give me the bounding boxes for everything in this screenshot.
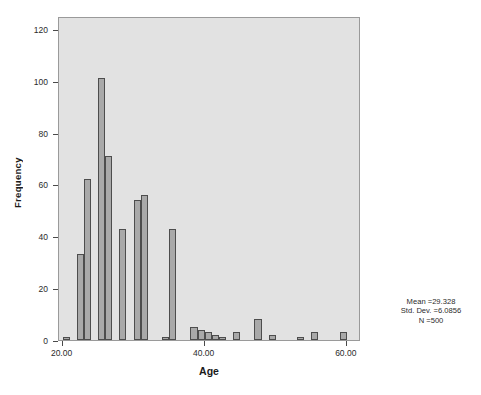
histogram-bar — [233, 332, 240, 340]
histogram-bar — [141, 195, 148, 340]
x-axis-title: Age — [58, 365, 360, 377]
y-axis-tick-label: 40 — [14, 233, 48, 242]
histogram-figure: Frequency 020406080100120 20.0040.0060.0… — [0, 0, 481, 395]
y-axis-tick-label: 0 — [14, 337, 48, 346]
histogram-bar — [198, 330, 205, 340]
histogram-bar — [162, 337, 169, 340]
y-axis-tick-label: 80 — [14, 130, 48, 139]
x-axis-tick — [62, 341, 63, 346]
histogram-bar — [297, 337, 304, 340]
y-axis-tick-label: 60 — [14, 181, 48, 190]
histogram-bar — [134, 200, 141, 340]
histogram-bar — [84, 179, 91, 340]
y-axis-tick-label: 120 — [14, 26, 48, 35]
stat-n: N =500 — [385, 316, 477, 325]
stat-std-dev: Std. Dev. =6.0856 — [385, 306, 477, 315]
histogram-bar — [77, 254, 84, 340]
histogram-bar — [205, 332, 212, 340]
y-axis-tick — [53, 341, 58, 342]
histogram-bar — [269, 335, 276, 340]
histogram-bar — [119, 229, 126, 340]
histogram-bar — [169, 229, 176, 340]
y-axis-tick-label: 20 — [14, 285, 48, 294]
histogram-bar — [219, 337, 226, 340]
x-axis-tick — [346, 341, 347, 346]
y-axis-tick-label: 100 — [14, 78, 48, 87]
histogram-bar — [98, 78, 105, 340]
histogram-bar — [311, 332, 318, 340]
stat-mean: Mean =29.328 — [385, 297, 477, 306]
statistics-annotation: Mean =29.328 Std. Dev. =6.0856 N =500 — [385, 297, 477, 325]
x-axis-tick-label: 20.00 — [39, 348, 85, 358]
bars-layer — [59, 18, 359, 340]
histogram-bar — [105, 156, 112, 340]
histogram-bar — [254, 319, 261, 340]
histogram-bar — [212, 335, 219, 340]
x-axis-tick-label: 40.00 — [181, 348, 227, 358]
plot-area — [58, 17, 360, 341]
histogram-bar — [340, 332, 347, 340]
x-axis-tick-label: 60.00 — [323, 348, 369, 358]
x-axis-tick — [204, 341, 205, 346]
histogram-bar — [63, 337, 70, 340]
histogram-bar — [190, 327, 197, 340]
